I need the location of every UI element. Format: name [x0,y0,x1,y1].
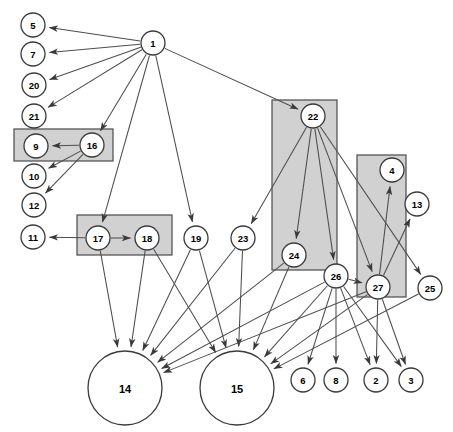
node-2[interactable]: 2 [364,368,388,392]
node-8[interactable]: 8 [324,368,348,392]
node-19[interactable]: 19 [184,226,208,250]
node-17[interactable]: 17 [86,226,110,250]
node-label-5: 5 [30,20,36,31]
node-label-14: 14 [119,383,132,395]
node-label-23: 23 [238,233,249,244]
node-11[interactable]: 11 [21,225,45,249]
node-20[interactable]: 20 [22,73,46,97]
node-label-2: 2 [373,375,378,386]
node-label-20: 20 [29,80,40,91]
node-10[interactable]: 10 [22,164,46,188]
group-box-22-24 [272,100,337,270]
node-label-7: 7 [30,49,35,60]
node-24[interactable]: 24 [282,243,306,267]
edge-24-to-15 [253,267,289,350]
edge-1-to-22 [165,48,298,109]
node-3[interactable]: 3 [399,368,423,392]
node-21[interactable]: 21 [22,104,46,128]
node-label-4: 4 [389,165,395,176]
group-boxes-layer [14,100,406,297]
node-label-17: 17 [93,233,104,244]
node-7[interactable]: 7 [21,42,45,66]
node-14[interactable]: 14 [88,351,162,425]
edge-26-to-3 [344,287,402,367]
edge-18-to-15 [154,249,216,352]
edge-1-to-21 [48,50,142,108]
node-6[interactable]: 6 [291,368,315,392]
node-26[interactable]: 26 [324,264,348,288]
node-label-15: 15 [231,383,243,395]
edge-27-to-2 [376,300,377,364]
node-13[interactable]: 13 [405,192,429,216]
edge-17-to-14 [100,251,117,347]
node-label-24: 24 [289,250,300,261]
node-label-10: 10 [29,171,40,182]
node-4[interactable]: 4 [380,158,404,182]
edge-26-to-6 [308,288,332,364]
node-label-13: 13 [412,199,423,210]
node-23[interactable]: 23 [231,226,255,250]
edge-1-to-5 [49,27,140,41]
edge-17-to-11 [49,237,85,238]
edge-25-to-15 [274,294,419,369]
edge-1-to-20 [50,47,141,79]
node-25[interactable]: 25 [418,276,442,300]
node-label-26: 26 [331,271,342,282]
node-label-19: 19 [191,233,202,244]
node-12[interactable]: 12 [22,193,46,217]
node-label-1: 1 [150,38,156,49]
node-label-6: 6 [300,375,305,386]
edge-1-to-19 [156,56,193,222]
edge-27-to-3 [382,299,405,364]
node-label-21: 21 [29,111,40,122]
node-label-27: 27 [373,282,384,293]
node-label-16: 16 [87,140,98,151]
node-label-3: 3 [408,375,413,386]
node-27[interactable]: 27 [366,275,390,299]
node-16[interactable]: 16 [80,133,104,157]
node-label-22: 22 [308,111,319,122]
node-label-25: 25 [425,283,436,294]
node-9[interactable]: 9 [24,134,48,158]
edge-18-to-14 [131,251,145,347]
node-label-11: 11 [28,232,39,243]
edge-1-to-7 [49,44,140,52]
node-15[interactable]: 15 [200,351,274,425]
node-label-18: 18 [142,233,153,244]
graph-canvas: 5720219161012111171819232224413262725141… [0,0,453,432]
node-22[interactable]: 22 [301,104,325,128]
node-label-8: 8 [333,375,338,386]
node-label-9: 9 [33,141,38,152]
node-1[interactable]: 1 [141,31,165,55]
edge-27-to-15 [271,295,368,364]
node-5[interactable]: 5 [21,13,45,37]
graph-diagram: 5720219161012111171819232224413262725141… [0,0,453,432]
node-label-12: 12 [29,200,40,211]
node-18[interactable]: 18 [135,226,159,250]
